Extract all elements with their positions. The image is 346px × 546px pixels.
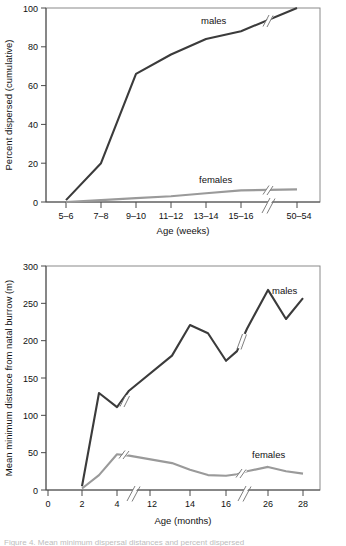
bottom-males-break-mark-2	[237, 334, 247, 350]
top-series-females-line	[66, 189, 297, 202]
bottom-y-ticks	[41, 266, 46, 490]
bottom-ytick-300: 300	[23, 262, 38, 272]
bottom-ytick-200: 200	[23, 336, 38, 346]
bottom-x-axis-break-mark-2	[238, 484, 251, 502]
top-ytick-100: 100	[23, 4, 38, 14]
bottom-xtick-0: 0	[45, 499, 50, 509]
top-xtick-50-54: 50–54	[286, 211, 311, 221]
bottom-ytick-0: 0	[33, 486, 38, 496]
bottom-ytick-100: 100	[23, 411, 38, 421]
top-x-axis-title: Age (weeks)	[157, 225, 210, 236]
bottom-xtick-2: 2	[79, 499, 84, 509]
top-ytick-20: 20	[28, 159, 38, 169]
bottom-x-ticks	[48, 490, 303, 496]
top-series-label-females: females	[199, 174, 233, 185]
bottom-series-label-males: males	[272, 285, 298, 296]
top-y-ticks	[41, 8, 46, 202]
bottom-series-label-females: females	[252, 449, 286, 460]
top-x-axis-break-mark	[262, 196, 275, 214]
bottom-xtick-12: 12	[147, 499, 157, 509]
top-x-ticks	[66, 202, 297, 208]
chart-panel-top: 0 20 40 60 80 100 Percent dispersed (cum…	[0, 0, 346, 258]
bottom-xtick-16: 16	[221, 499, 231, 509]
bottom-chart-svg: 0 50 100 150 200 250 300 Mean minimum di…	[0, 258, 346, 546]
top-xtick-15-16: 15–16	[228, 211, 253, 221]
top-plot-frame	[46, 8, 320, 202]
bottom-xtick-28: 28	[298, 499, 308, 509]
top-series-males-line	[66, 8, 297, 200]
bottom-x-axis-break-mark-1	[127, 484, 140, 502]
top-ytick-60: 60	[28, 81, 38, 91]
bottom-ytick-150: 150	[23, 374, 38, 384]
chart-panel-bottom: 0 50 100 150 200 250 300 Mean minimum di…	[0, 258, 346, 546]
figure-container: 0 20 40 60 80 100 Percent dispersed (cum…	[0, 0, 346, 546]
top-y-axis-title: Percent dispersed (cumulative)	[3, 40, 14, 171]
top-xtick-11-12: 11–12	[159, 211, 183, 221]
bottom-y-axis-title: Mean minimum distance from natal burrow …	[3, 280, 14, 476]
figure-caption: Figure 4. Mean minimum dispersal distanc…	[4, 538, 342, 546]
top-chart-svg: 0 20 40 60 80 100 Percent dispersed (cum…	[0, 0, 346, 258]
top-ytick-40: 40	[28, 120, 38, 130]
bottom-xtick-4: 4	[114, 499, 119, 509]
bottom-x-axis-title: Age (months)	[154, 515, 211, 526]
top-ytick-0: 0	[33, 198, 38, 208]
top-xtick-9-10: 9–10	[126, 211, 146, 221]
bottom-xtick-26: 26	[263, 499, 273, 509]
top-series-label-males: males	[201, 15, 227, 26]
top-xtick-13-14: 13–14	[193, 211, 218, 221]
bottom-ytick-250: 250	[23, 299, 38, 309]
top-xtick-7-8: 7–8	[93, 211, 108, 221]
bottom-xtick-14: 14	[185, 499, 195, 509]
top-xtick-5-6: 5–6	[58, 211, 73, 221]
top-ytick-80: 80	[28, 42, 38, 52]
bottom-ytick-50: 50	[28, 448, 38, 458]
